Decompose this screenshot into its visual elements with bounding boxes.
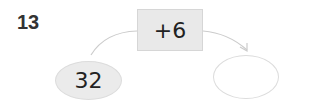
operation-label: +6 [154,18,186,43]
start-value: 32 [75,68,103,93]
operation-box: +6 [137,9,203,51]
incoming-arc [91,31,137,55]
start-value-ellipse: 32 [55,61,122,100]
answer-ellipse[interactable] [213,55,279,99]
